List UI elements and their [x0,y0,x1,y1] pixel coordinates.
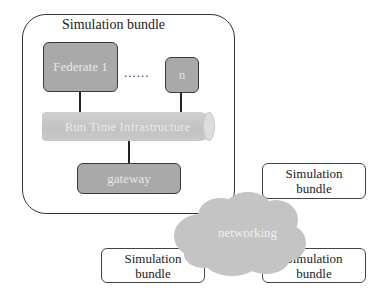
rti-label: Run Time Infrastructure [65,119,191,135]
main-bundle-title: Simulation bundle [62,17,165,33]
gateway-label: gateway [107,171,150,187]
networking-label: networking [195,225,300,241]
diagram-canvas: Simulationbundle Simulationbundle Simula… [0,0,387,298]
federate-1-box: Federate 1 [43,42,118,92]
federate-n-label: n [179,67,186,83]
rti-cylinder-end [203,112,215,141]
bundle-label-line2: bundle [135,266,170,281]
connector-rti-gateway [128,141,130,163]
rti-cylinder: Run Time Infrastructure [42,112,213,141]
ellipsis: ...... [124,65,150,81]
federate-n-box: n [165,57,199,93]
connector-federate1-rti [79,92,81,112]
federate-1-label: Federate 1 [53,59,108,75]
connector-federaten-rti [180,93,182,112]
bundle-label-line1: Simulation [285,166,342,181]
gateway-box: gateway [77,163,181,194]
